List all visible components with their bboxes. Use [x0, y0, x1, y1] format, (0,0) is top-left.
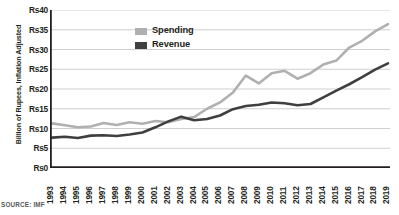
x-tick-label: 2010	[265, 170, 275, 204]
y-tick-label: Rs0	[2, 163, 48, 173]
plot-area	[50, 10, 390, 168]
x-tick-label: 2013	[304, 170, 314, 204]
x-tick-label: 1995	[71, 170, 81, 204]
x-axis-tick-labels: 1993199419951996199719981999200020012002…	[50, 170, 390, 204]
legend-label-spending: Spending	[152, 26, 194, 35]
x-tick-label: 2007	[226, 170, 236, 204]
legend-item-spending: Spending	[135, 24, 194, 38]
x-tick-label: 1997	[97, 170, 107, 204]
x-tick-label: 2005	[200, 170, 210, 204]
series-line-spending	[52, 24, 388, 127]
x-tick-label: 2004	[188, 170, 198, 204]
y-tick-label: Rs35	[2, 25, 48, 35]
gridlines	[50, 10, 390, 148]
x-tick-label: 2006	[213, 170, 223, 204]
x-tick-label: 2018	[368, 170, 378, 204]
y-tick-label: Rs40	[2, 5, 48, 15]
x-tick-label: 2009	[252, 170, 262, 204]
y-tick-label: Rs5	[2, 143, 48, 153]
x-tick-label: 1999	[123, 170, 133, 204]
x-tick-label: 2008	[239, 170, 249, 204]
y-tick-label: Rs20	[2, 84, 48, 94]
x-tick-label: 2016	[343, 170, 353, 204]
series-line-revenue	[52, 63, 388, 138]
x-tick-label: 2002	[162, 170, 172, 204]
legend-item-revenue: Revenue	[135, 38, 194, 52]
x-tick-label: 2014	[317, 170, 327, 204]
legend-swatch-spending	[135, 28, 147, 35]
x-tick-label: 2003	[175, 170, 185, 204]
legend-label-revenue: Revenue	[152, 40, 190, 49]
x-tick-label: 2015	[330, 170, 340, 204]
source-note: SOURCE: IMF	[1, 201, 45, 208]
chart-container: Billion of Rupees, Inflation Adjusted Rs…	[0, 0, 399, 215]
y-tick-label: Rs10	[2, 124, 48, 134]
chart-svg	[50, 10, 390, 168]
y-tick-label: Rs30	[2, 45, 48, 55]
chart-legend: Spending Revenue	[135, 24, 194, 52]
x-tick-label: 1993	[45, 170, 55, 204]
x-tick-label: 2001	[149, 170, 159, 204]
y-tick-label: Rs15	[2, 104, 48, 114]
legend-swatch-revenue	[135, 42, 147, 49]
x-tick-label: 1996	[84, 170, 94, 204]
x-tick-label: 2017	[356, 170, 366, 204]
x-tick-label: 2012	[291, 170, 301, 204]
x-tick-label: 2000	[136, 170, 146, 204]
x-tick-label: 2011	[278, 170, 288, 204]
x-tick-label: 2019	[381, 170, 391, 204]
y-axis-tick-labels: Rs0Rs5Rs10Rs15Rs20Rs25Rs30Rs35Rs40	[0, 0, 48, 215]
x-tick-label: 1994	[58, 170, 68, 204]
x-tick-label: 1998	[110, 170, 120, 204]
series-lines	[52, 24, 388, 138]
y-tick-label: Rs25	[2, 64, 48, 74]
